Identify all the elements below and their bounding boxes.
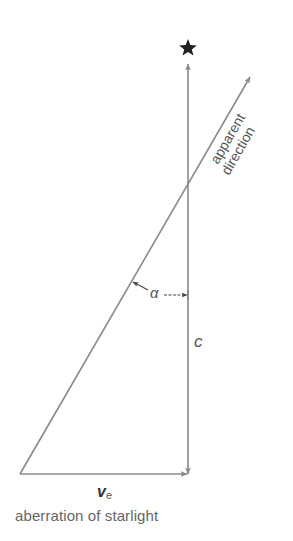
angle-arrow-left bbox=[133, 282, 148, 290]
diagram-caption: aberration of starlight bbox=[15, 507, 158, 524]
star-icon bbox=[179, 39, 197, 56]
angle-alpha-label: α bbox=[150, 284, 159, 301]
earth-velocity-label: ve bbox=[97, 483, 112, 501]
light-speed-label: c bbox=[194, 332, 203, 351]
aberration-diagram: α c ve apparent direction bbox=[0, 0, 293, 541]
apparent-direction-vector bbox=[20, 77, 250, 474]
